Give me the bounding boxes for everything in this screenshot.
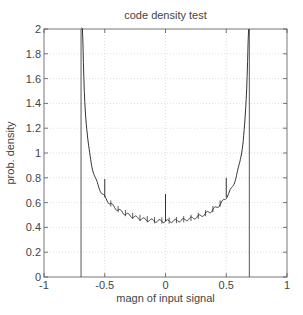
x-tick-label: -0.5: [95, 279, 114, 291]
y-tick-label: 0.4: [26, 221, 41, 233]
y-tick-label: 1.8: [26, 48, 41, 60]
y-tick-label: 1.2: [26, 122, 41, 134]
y-tick-label: 2: [35, 23, 41, 35]
y-tick-label: 0.8: [26, 172, 41, 184]
x-tick-label: 0: [162, 279, 168, 291]
x-tick-label: 1: [284, 279, 290, 291]
x-tick-label: -1: [39, 279, 49, 291]
plot-area: 00.20.40.60.811.21.41.61.82-1-0.500.51: [0, 0, 303, 315]
x-tick-label: 0.5: [219, 279, 234, 291]
y-tick-label: 0.2: [26, 246, 41, 258]
y-tick-label: 1: [35, 147, 41, 159]
y-tick-label: 1.6: [26, 73, 41, 85]
y-tick-label: 0.6: [26, 197, 41, 209]
y-tick-label: 1.4: [26, 97, 41, 109]
